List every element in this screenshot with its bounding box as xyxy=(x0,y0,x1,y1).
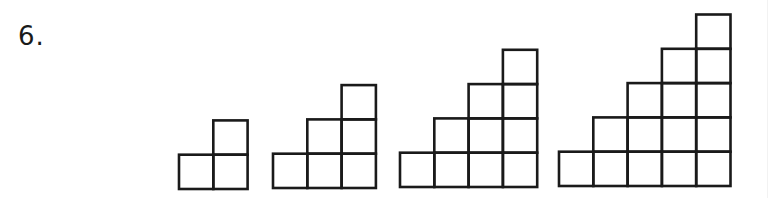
square-cell xyxy=(307,119,341,153)
square-cell xyxy=(469,118,503,152)
square-cell xyxy=(662,83,696,117)
figure-3 xyxy=(400,50,537,187)
square-cell xyxy=(434,153,468,187)
square-cell xyxy=(593,152,627,186)
square-cell xyxy=(469,84,503,118)
square-cell xyxy=(593,117,627,151)
square-cell xyxy=(628,83,662,117)
figure-2 xyxy=(273,85,376,188)
square-cell xyxy=(469,153,503,187)
square-cell xyxy=(662,117,696,151)
square-cell xyxy=(307,154,341,188)
square-cell xyxy=(662,49,696,83)
staircase-figures xyxy=(0,0,781,198)
figure-1 xyxy=(179,120,248,189)
square-cell xyxy=(628,152,662,186)
square-cell xyxy=(696,117,730,151)
square-cell xyxy=(342,85,376,119)
square-cell xyxy=(559,152,593,186)
square-cell xyxy=(213,155,247,189)
square-cell xyxy=(696,15,730,49)
square-cell xyxy=(434,118,468,152)
square-cell xyxy=(342,154,376,188)
square-cell xyxy=(662,152,696,186)
square-cell xyxy=(400,153,434,187)
square-cell xyxy=(179,155,213,189)
square-cell xyxy=(696,83,730,117)
square-cell xyxy=(696,152,730,186)
square-cell xyxy=(342,119,376,153)
figure-4 xyxy=(559,15,731,187)
square-cell xyxy=(696,49,730,83)
square-cell xyxy=(628,117,662,151)
page-edge-divider xyxy=(767,0,768,198)
square-cell xyxy=(503,50,537,84)
square-cell xyxy=(273,154,307,188)
square-cell xyxy=(503,84,537,118)
square-cell xyxy=(503,118,537,152)
square-cell xyxy=(503,153,537,187)
square-cell xyxy=(213,120,247,154)
